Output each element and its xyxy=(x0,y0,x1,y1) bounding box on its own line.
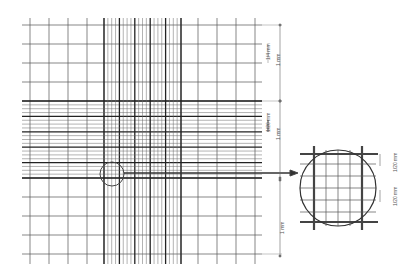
dim-label-mid-sub: 1/20 mm xyxy=(265,113,271,132)
hemocytometer-diagram xyxy=(0,0,417,276)
dim-label-mid-1mm: 1 mm xyxy=(275,128,281,141)
dim-label-top-1mm: 1 mm xyxy=(275,54,281,67)
dim-label-top-sub: 1/4 mm xyxy=(265,43,271,60)
counting-grid xyxy=(22,18,298,264)
dimension-endpoint xyxy=(279,179,281,181)
magnified-view xyxy=(300,146,380,230)
mag-label-top: 1/20 mm xyxy=(392,153,398,172)
dim-label-bot-1mm: 1 mm xyxy=(279,222,285,235)
arrow-head-icon xyxy=(290,170,298,176)
mag-label-bottom: 1/20 mm xyxy=(392,187,398,206)
dimension-endpoint xyxy=(279,255,281,257)
